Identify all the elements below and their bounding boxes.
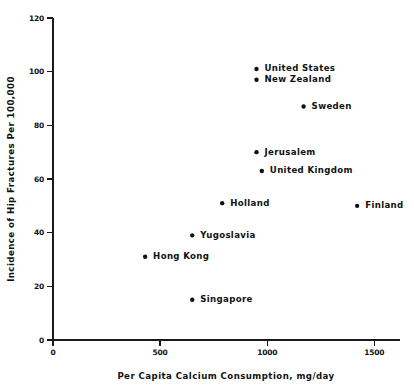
data-point-label: Yugoslavia: [199, 230, 255, 240]
y-tick-label: 100: [29, 67, 44, 76]
x-tick-label: 1000: [257, 348, 277, 357]
x-tick-label: 1500: [364, 348, 384, 357]
data-point-marker: [355, 204, 359, 208]
y-tick-label: 80: [34, 121, 44, 130]
data-point-label: Jerusalem: [263, 147, 315, 157]
y-tick-label: 120: [29, 14, 44, 23]
y-tick-label: 60: [34, 175, 44, 184]
x-axis-title: Per Capita Calcium Consumption, mg/day: [117, 371, 334, 381]
data-point-label: Singapore: [200, 294, 252, 304]
data-point-marker: [301, 104, 305, 108]
y-tick-label: 20: [34, 282, 44, 291]
x-tick-label: 0: [50, 348, 55, 357]
data-points: United StatesNew ZealandSwedenJerusalemU…: [143, 63, 404, 304]
data-point-marker: [220, 201, 224, 205]
data-point-label: United Kingdom: [270, 165, 353, 175]
data-point-label: Holland: [230, 198, 270, 208]
data-point-marker: [254, 67, 258, 71]
data-point-label: United States: [264, 63, 335, 73]
plot-area: 020406080100120 050010001500 United Stat…: [0, 0, 414, 391]
data-point-label: Hong Kong: [153, 251, 209, 261]
data-point-label: Finland: [365, 200, 403, 210]
data-point-marker: [254, 78, 258, 82]
y-axis-title: Incidence of Hip Fractures Per 100,000: [6, 76, 16, 282]
data-point-marker: [254, 150, 258, 154]
data-point-label: Sweden: [312, 101, 352, 111]
x-tick-label: 500: [153, 348, 168, 357]
y-tick-label: 40: [34, 228, 44, 237]
y-axis-ticks: 020406080100120: [29, 14, 53, 345]
data-point-label: New Zealand: [264, 74, 331, 84]
data-point-marker: [190, 298, 194, 302]
x-axis-ticks: 050010001500: [50, 340, 384, 357]
scatter-chart: 020406080100120 050010001500 United Stat…: [0, 0, 414, 391]
y-tick-label: 0: [39, 336, 44, 345]
data-point-marker: [190, 233, 194, 237]
data-point-marker: [143, 255, 147, 259]
data-point-marker: [260, 169, 264, 173]
